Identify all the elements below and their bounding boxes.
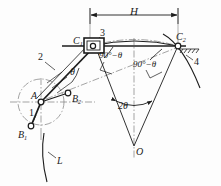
joint-C1 <box>90 43 95 48</box>
angle-label-ninety-minus-theta-2: 90°−θ <box>133 60 156 69</box>
point-label-C1: C1 <box>73 36 83 47</box>
link-label-1: 1 <box>29 108 34 118</box>
point-label-B2: B2 <box>72 94 81 105</box>
mechanism-figure: H C1 C2 A B1 B2 O 1 2 3 4 θ 2θ 90°−θ 90°… <box>0 0 221 186</box>
dimension-label-H: H <box>130 6 138 17</box>
point-label-C2: C2 <box>176 32 186 43</box>
ground-hatch <box>178 49 199 53</box>
joint-C2 <box>175 43 181 49</box>
link-label-3: 3 <box>100 28 105 38</box>
link-label-2: 2 <box>38 52 43 62</box>
leader-ninety-2 <box>146 70 162 78</box>
joint-B2 <box>65 90 71 96</box>
angle-label-2theta: 2θ <box>118 101 128 111</box>
curve-label-L: L <box>57 156 63 166</box>
leader-2 <box>45 62 55 70</box>
point-label-B1: B1 <box>18 130 27 141</box>
point-label-A: A <box>31 91 37 101</box>
angle-label-ninety-minus-theta-1: 90°−θ <box>99 51 122 60</box>
curve-L <box>43 133 56 182</box>
point-label-O: O <box>136 147 143 157</box>
joint-A <box>38 99 44 105</box>
joint-B1 <box>28 123 34 129</box>
leader-4 <box>186 55 193 60</box>
angle-label-theta: θ <box>70 67 75 77</box>
link-label-4: 4 <box>194 57 199 67</box>
